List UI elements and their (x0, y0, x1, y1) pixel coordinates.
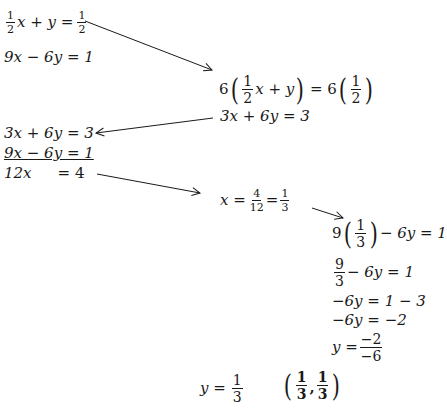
elimination-row3: 12x = 4 (4, 166, 84, 181)
substitute-line3: −6y = 1 − 3 (332, 294, 426, 309)
arrow-to-elimination (96, 118, 213, 133)
fraction: 12 (6, 10, 15, 35)
fraction: 12 (77, 10, 86, 35)
fraction: 12 (242, 74, 253, 105)
substitute-line5: y = −2−6 (332, 332, 384, 363)
fraction: 13 (296, 370, 308, 401)
fraction: 13 (280, 188, 289, 213)
fraction: 13 (317, 370, 329, 401)
multiply-step-result: 3x + 6y = 3 (220, 109, 310, 124)
arrow-to-solve-x (97, 174, 200, 193)
fraction: 13 (355, 218, 366, 249)
substitute-line4: −6y = −2 (332, 313, 407, 328)
fraction: 12 (351, 74, 362, 105)
elimination-row2: 9x − 6y = 1 (4, 146, 94, 161)
solve-x: x = 412 = 13 (220, 188, 291, 213)
result-point: ( 13 , 13 ) (282, 370, 342, 401)
fraction: 412 (250, 188, 264, 213)
multiply-step-equation: 6 ( 12 x + y ) = 6 ( 12 ) (219, 74, 375, 105)
fraction: 93 (334, 257, 345, 288)
system-eq1: 12 x + y = 12 (4, 10, 88, 35)
fraction: 13 (232, 373, 243, 404)
elimination-row1: 3x + 6y = 3 (4, 126, 94, 141)
system-eq2: 9x − 6y = 1 (4, 50, 94, 65)
arrow-to-multiply (85, 21, 212, 70)
substitute-line2: 93 − 6y = 1 (332, 257, 414, 288)
fraction: −2−6 (360, 332, 383, 363)
arrow-to-substitute (312, 208, 343, 218)
substitute-line1: 9 ( 13 ) − 6y = 1 (332, 218, 447, 249)
result-y: y = 13 (200, 373, 245, 404)
